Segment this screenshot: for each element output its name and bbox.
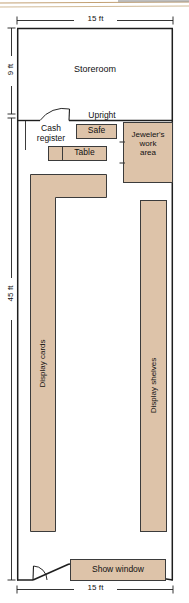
- dimension-bottom-width: [17, 586, 173, 594]
- fixture-jewelers-work-area: [120, 123, 173, 183]
- dimension-sales-floor-depth: [8, 118, 16, 580]
- storeroom-door: [40, 108, 70, 120]
- fixture-table: [49, 147, 107, 161]
- dimension-storeroom-depth: [8, 28, 16, 114]
- fixture-safe: [77, 125, 117, 139]
- fixture-display-cards: [31, 175, 107, 532]
- fixture-display-shelves: [141, 201, 167, 532]
- fixture-show-window: [71, 560, 166, 581]
- floor-plan-canvas: [0, 0, 189, 603]
- dimension-top-width: [17, 17, 173, 25]
- entry-door: [33, 566, 47, 580]
- clipped-page-banner: [0, 0, 189, 7]
- floor-plan-diagram: 15 ft 9 ft 45 ft 15 ft Storeroom Cash re…: [0, 0, 189, 603]
